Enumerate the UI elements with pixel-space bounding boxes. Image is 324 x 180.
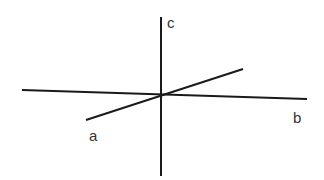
axis-b-label: b xyxy=(293,109,301,126)
axis-a xyxy=(86,69,243,120)
axes-diagram: c b a xyxy=(0,0,324,180)
axis-a-label: a xyxy=(89,127,98,144)
axis-c-label: c xyxy=(167,14,175,31)
